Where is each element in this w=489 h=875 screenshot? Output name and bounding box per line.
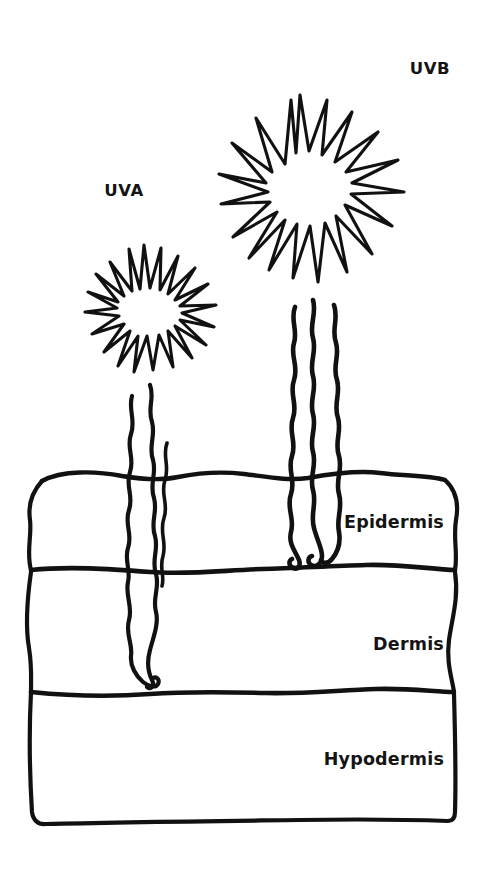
uva-beam — [127, 385, 167, 688]
uvb-sun-icon — [219, 95, 404, 282]
uva-beam-line-3 — [162, 443, 167, 586]
uva-sun-icon — [85, 245, 216, 372]
dermis-label: Dermis — [373, 634, 444, 654]
epidermis-dermis-boundary — [31, 565, 455, 573]
dermis-right-edge — [448, 572, 456, 692]
epidermis-label: Epidermis — [344, 512, 444, 532]
uv-skin-diagram: UVA UVB Epidermis Dermis Hypodermis — [0, 0, 489, 875]
uvb-beam-line-3 — [321, 305, 340, 563]
uvb-beam-line-2 — [308, 300, 322, 566]
dermis-hypodermis-boundary — [31, 689, 454, 696]
uva-label: UVA — [104, 181, 144, 200]
uvb-beam — [289, 300, 340, 569]
hypodermis-label: Hypodermis — [324, 749, 444, 769]
diagram-canvas: UVA UVB Epidermis Dermis Hypodermis — [0, 0, 489, 875]
uvb-beam-line-1 — [289, 307, 299, 569]
uva-beam-line-2 — [147, 385, 157, 688]
dermis-left-edge — [27, 572, 31, 692]
uvb-label: UVB — [410, 59, 451, 78]
epidermis-right-edge — [445, 480, 457, 570]
skin-surface-line — [42, 472, 445, 481]
epidermis-left-edge — [29, 481, 42, 570]
